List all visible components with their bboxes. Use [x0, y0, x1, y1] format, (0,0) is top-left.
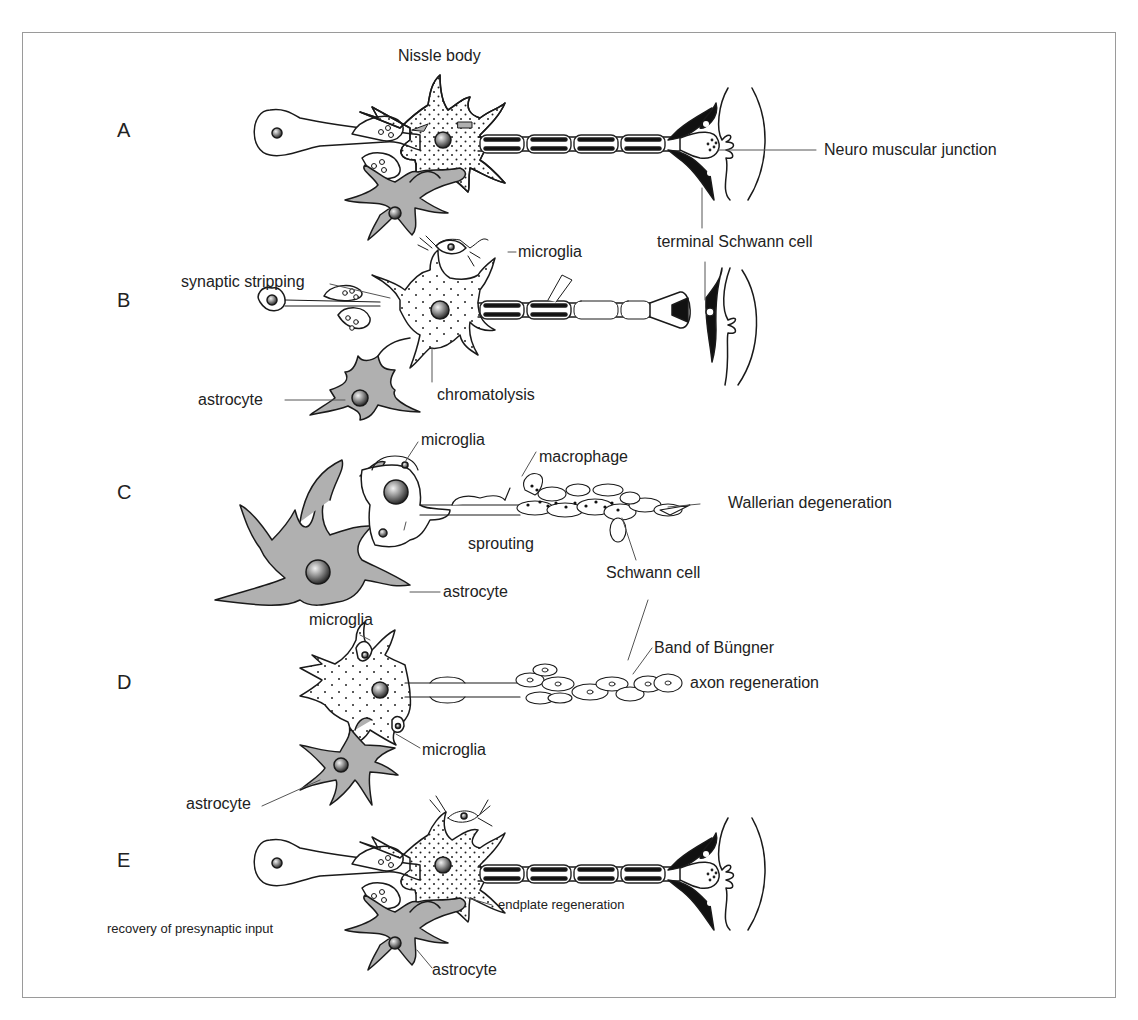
label-axon-regeneration: axon regeneration	[690, 675, 819, 691]
label-synaptic-stripping: synaptic stripping	[181, 274, 305, 290]
label-terminal-schwann-cell: terminal Schwann cell	[657, 234, 813, 250]
label-astrocyte-c: astrocyte	[443, 584, 508, 600]
label-endplate-regeneration: endplate regeneration	[498, 898, 625, 911]
label-macrophage: macrophage	[539, 449, 628, 465]
label-microglia-d-bottom: microglia	[422, 742, 486, 758]
row-a-neuron	[254, 75, 765, 240]
row-letter-a: A	[117, 120, 130, 140]
label-astrocyte-d: astrocyte	[186, 796, 251, 812]
label-wallerian-degeneration: Wallerian degeneration	[728, 495, 892, 511]
label-nissle-body: Nissle body	[398, 48, 481, 64]
row-e-neuron	[254, 796, 765, 970]
label-astrocyte-b: astrocyte	[198, 392, 263, 408]
label-microglia-b: microglia	[518, 244, 582, 260]
label-microglia-c: microglia	[421, 432, 485, 448]
label-schwann-cell: Schwann cell	[606, 565, 700, 581]
row-letter-c: C	[117, 482, 131, 502]
row-letter-b: B	[117, 290, 130, 310]
label-neuromuscular-junction: Neuro muscular junction	[824, 142, 997, 158]
label-band-of-bungner: Band of Büngner	[654, 640, 774, 656]
row-letter-d: D	[117, 672, 131, 692]
label-recovery-presynaptic-input: recovery of presynaptic input	[107, 922, 273, 935]
label-sprouting: sprouting	[468, 536, 534, 552]
label-microglia-d-top: microglia	[309, 612, 373, 628]
row-d-neuron	[300, 622, 682, 805]
label-chromatolysis: chromatolysis	[437, 387, 535, 403]
row-letter-e: E	[117, 850, 130, 870]
label-astrocyte-e: astrocyte	[432, 962, 497, 978]
